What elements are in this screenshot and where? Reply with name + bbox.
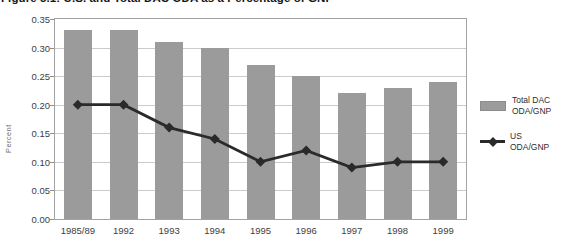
x-tick-label: 1985/89 [55, 225, 101, 236]
y-tick [50, 105, 54, 106]
plot-area [54, 18, 467, 220]
y-tick [50, 162, 54, 163]
y-tick-label: 0.35 [0, 14, 50, 25]
chart-title-clip: Figure 5.1: U.S. and Total DAC ODA as a … [1, 0, 561, 7]
y-tick-label: 0.20 [0, 100, 50, 111]
x-tick-label: 1993 [146, 225, 192, 236]
y-tick [50, 19, 54, 20]
us-line-series [55, 19, 466, 219]
y-tick-label: 0.25 [0, 71, 50, 82]
us-line-marker [438, 157, 448, 167]
x-tick-label: 1998 [375, 225, 421, 236]
us-line-marker [119, 100, 129, 110]
us-line-marker [393, 157, 403, 167]
line-diamond-swatch [480, 136, 505, 147]
y-tick-label: 0.05 [0, 185, 50, 196]
y-tick [50, 190, 54, 191]
x-tick-label: 1995 [238, 225, 284, 236]
legend: Total DAC ODA/GNP US ODA/GNP [480, 95, 560, 167]
legend-item-total-dac: Total DAC ODA/GNP [480, 95, 560, 116]
x-tick-label: 1999 [420, 225, 466, 236]
y-tick [50, 76, 54, 77]
y-tick-label: 0.15 [0, 128, 50, 139]
y-tick-label: 0.30 [0, 43, 50, 54]
us-line-marker [347, 163, 357, 173]
x-tick-label: 1997 [329, 225, 375, 236]
us-line-marker [73, 100, 83, 110]
us-line-marker [210, 134, 220, 144]
legend-label-total-dac: Total DAC ODA/GNP [512, 95, 551, 116]
x-tick-label: 1996 [283, 225, 329, 236]
legend-label-us: US ODA/GNP [510, 131, 549, 152]
legend-item-us: US ODA/GNP [480, 131, 560, 152]
bar-swatch [480, 101, 506, 111]
chart-title: Figure 5.1: U.S. and Total DAC ODA as a … [1, 0, 561, 4]
x-tick-label: 1994 [192, 225, 238, 236]
us-line-marker [256, 157, 266, 167]
x-tick-label: 1992 [101, 225, 147, 236]
y-tick-label: 0.10 [0, 157, 50, 168]
us-line-marker [164, 123, 174, 133]
y-tick-label: 0.00 [0, 214, 50, 225]
us-line-marker [301, 145, 311, 155]
diamond-marker-icon [488, 137, 498, 147]
chart: Figure 5.1: U.S. and Total DAC ODA as a … [0, 0, 561, 247]
y-tick [50, 133, 54, 134]
y-tick [50, 219, 54, 220]
y-tick [50, 48, 54, 49]
